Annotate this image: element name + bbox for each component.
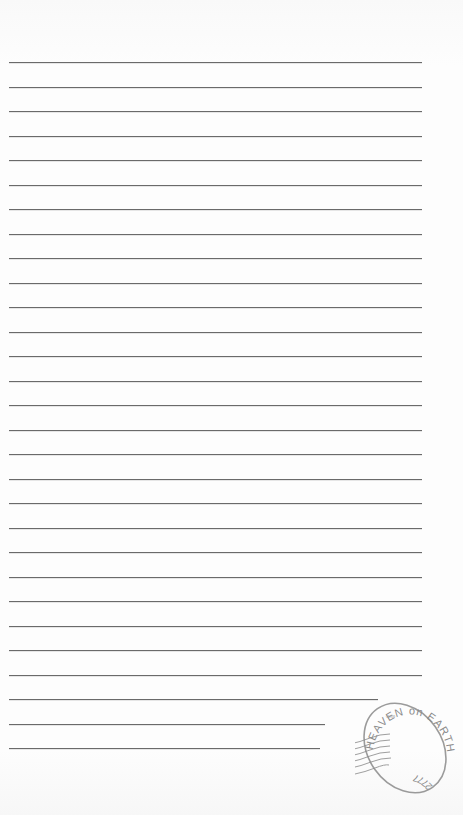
ruled-line <box>9 332 422 333</box>
ruled-line <box>9 528 422 529</box>
ruled-line <box>9 356 422 357</box>
ruled-line <box>9 430 422 431</box>
ruled-line <box>9 307 422 308</box>
ruled-line <box>9 136 422 137</box>
postmark-center-text: ·ЯЯЯ· <box>385 714 396 719</box>
ruled-line <box>9 405 422 406</box>
postmark-bottom-text: 2777 <box>411 772 434 792</box>
ruled-line <box>9 577 422 578</box>
ruled-line <box>9 209 422 210</box>
ruled-line <box>9 454 422 455</box>
ruled-line <box>9 503 422 504</box>
ruled-line <box>9 675 422 676</box>
ruled-line <box>9 601 422 602</box>
ruled-line <box>9 258 422 259</box>
ruled-line <box>9 234 422 235</box>
ruled-line <box>9 626 422 627</box>
ruled-line <box>9 552 422 553</box>
ruled-line <box>9 650 422 651</box>
ruled-line <box>9 160 422 161</box>
postmark-stamp: HEAVEN on EARTH ·ЯЯЯ· 2777 <box>355 688 463 808</box>
ruled-line <box>9 748 320 749</box>
ruled-line <box>9 699 378 700</box>
ruled-line <box>9 185 422 186</box>
ruled-line <box>9 87 422 88</box>
ruled-line <box>9 111 422 112</box>
postmark-top-text: HEAVEN on EARTH <box>363 704 457 753</box>
ruled-line <box>9 283 422 284</box>
ruled-line <box>9 381 422 382</box>
ruled-line <box>9 479 422 480</box>
ruled-line <box>9 724 325 725</box>
ruled-line <box>9 62 422 63</box>
lined-paper: HEAVEN on EARTH ·ЯЯЯ· 2777 <box>0 0 463 815</box>
